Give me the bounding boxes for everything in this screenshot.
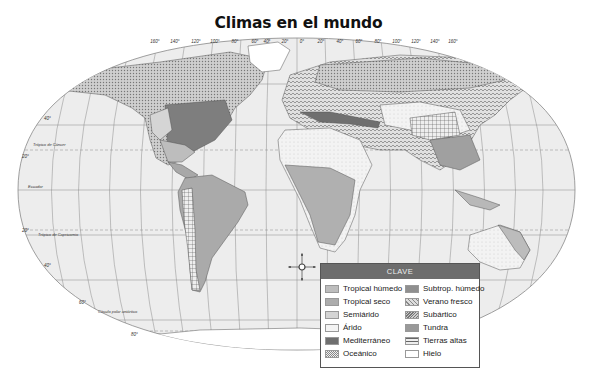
- equator-label: Ecuador: [28, 184, 44, 189]
- swatch-tropical-humedo: [325, 285, 339, 293]
- swatch-hielo: [405, 350, 419, 358]
- lat-label: 20°: [21, 228, 29, 233]
- swatch-verano-fresco: [405, 298, 419, 306]
- tropic-of-cancer-label: Trópico de Cáncer: [33, 142, 66, 147]
- lat-label: 40°: [44, 116, 51, 121]
- lon-label: 20°: [281, 39, 289, 44]
- lon-label: 60°: [356, 39, 363, 44]
- legend-item: Verano fresco: [405, 295, 485, 308]
- lon-label: 20°: [317, 39, 325, 44]
- swatch-subtrop-humedo: [405, 285, 419, 293]
- lon-label: 40°: [337, 39, 344, 44]
- lon-label: 80°: [232, 39, 239, 44]
- lon-label: 80°: [375, 39, 382, 44]
- lon-label: 140°: [430, 39, 440, 44]
- world-climate-map: 160° 140° 120° 100° 80° 60° 40° 20° 0° 2…: [0, 0, 597, 376]
- lat-label: 40°: [44, 263, 51, 268]
- legend-item: Tierras altas: [405, 334, 485, 347]
- legend-item: Hielo: [405, 347, 485, 360]
- swatch-tierras-altas: [405, 337, 419, 345]
- lat-label: 80°: [131, 332, 138, 337]
- legend-title: CLAVE: [321, 264, 479, 279]
- legend-item: Tundra: [405, 321, 485, 334]
- legend-key: CLAVE Tropical húmedo Subtrop. húmedo Tr…: [320, 263, 480, 368]
- legend-item: Subártico: [405, 308, 485, 321]
- swatch-tropical-seco: [325, 298, 339, 306]
- lon-label: 100°: [210, 39, 220, 44]
- swatch-arido: [325, 324, 339, 332]
- legend-item: Semiárido: [325, 308, 405, 321]
- legend-item: Mediterráneo: [325, 334, 405, 347]
- lon-label: 160°: [448, 39, 458, 44]
- swatch-oceanico: [325, 350, 339, 358]
- swatch-tundra: [405, 324, 419, 332]
- legend-item: Oceánico: [325, 347, 405, 360]
- legend-item: Subtrop. húmedo: [405, 282, 485, 295]
- lon-label: 100°: [392, 39, 402, 44]
- tropic-of-capricorn-label: Trópico de Capricornio: [38, 232, 79, 237]
- lon-label: 120°: [411, 39, 421, 44]
- lon-label: 40°: [264, 39, 271, 44]
- lon-label: 140°: [170, 39, 180, 44]
- legend-item: Tropical húmedo: [325, 282, 405, 295]
- swatch-mediterraneo: [325, 337, 339, 345]
- lon-label: 160°: [150, 39, 160, 44]
- lon-label: 0°: [300, 39, 305, 44]
- lat-label: 20°: [21, 154, 29, 159]
- lon-label: 60°: [252, 39, 259, 44]
- lat-label: 60°: [79, 300, 86, 305]
- lon-label: 120°: [191, 39, 201, 44]
- swatch-subartico: [405, 311, 419, 319]
- legend-items: Tropical húmedo Subtrop. húmedo Tropical…: [321, 279, 479, 360]
- swatch-semiarido: [325, 311, 339, 319]
- legend-item: Árido: [325, 321, 405, 334]
- antarctic-circle-label: Círculo polar antártico: [98, 309, 138, 314]
- legend-item: Tropical seco: [325, 295, 405, 308]
